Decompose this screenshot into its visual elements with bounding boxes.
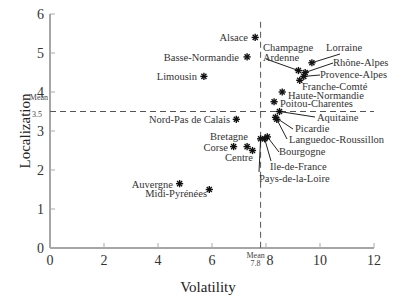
y-tick-label: 5 [37, 46, 44, 61]
asterisk-marker [273, 116, 280, 123]
point-label: Midi-Pyrénées [145, 188, 207, 199]
y-tick-label: 3 [37, 124, 44, 139]
leader-line [280, 112, 316, 118]
x-tick-label: 10 [313, 253, 327, 268]
point-label: Ardenne [263, 52, 299, 63]
point-label: Nord-Pas de Calais [149, 114, 230, 125]
leader-line [265, 139, 271, 161]
point-label: Bourgogne [279, 146, 326, 157]
point-label: Alsace [219, 32, 248, 43]
point-label: Rhône-Alpes [333, 57, 388, 68]
y-axis-title: Localization [17, 93, 33, 168]
asterisk-marker [252, 34, 259, 41]
x-tick-label: 6 [209, 253, 216, 268]
point-label: Picardie [295, 123, 330, 134]
y-tick-label: 1 [37, 202, 44, 217]
asterisk-marker [233, 116, 240, 123]
point-label: Bretagne [210, 131, 248, 142]
point-label: Ile-de-France [270, 161, 327, 172]
y-tick-label: 6 [37, 7, 44, 22]
point-label: Lorraine [326, 42, 362, 53]
scatter-chart: 0246810120123456 Mean7.8Mean3.5 AlsaceBa… [0, 0, 393, 303]
point-label: Provence-Alpes [320, 69, 387, 80]
asterisk-marker [271, 98, 278, 105]
asterisk-marker [244, 53, 251, 60]
point-label: Centre [225, 152, 253, 163]
point-label: Basse-Normandie [164, 52, 240, 63]
x-tick-label: 8 [267, 253, 274, 268]
x-tick-label: 4 [155, 253, 162, 268]
x-axis-title: Volatility [180, 279, 236, 295]
asterisk-marker [200, 73, 207, 80]
leader-line [277, 119, 287, 139]
x-tick-label: 2 [101, 253, 108, 268]
asterisk-marker [257, 135, 264, 142]
asterisk-marker [230, 143, 237, 150]
y-tick-label: 2 [37, 163, 44, 178]
point-label: Languedoc-Roussillon [289, 134, 385, 145]
y-tick-label: 0 [37, 241, 44, 256]
asterisk-marker [295, 67, 302, 74]
mean-x-value: 7.8 [251, 259, 261, 268]
asterisk-marker [279, 88, 286, 95]
x-tick-label: 12 [367, 253, 381, 268]
asterisk-marker [176, 180, 183, 187]
point-label: Limousin [157, 71, 198, 82]
point-label: Aquitaine [317, 112, 359, 123]
point-label: Pays-de-la-Loire [259, 173, 330, 184]
asterisk-marker [244, 143, 251, 150]
asterisk-marker [308, 59, 315, 66]
x-tick-label: 0 [47, 253, 54, 268]
mean-y-value: 3.5 [32, 110, 42, 119]
point-label: Poitou-Charentes [280, 98, 353, 109]
